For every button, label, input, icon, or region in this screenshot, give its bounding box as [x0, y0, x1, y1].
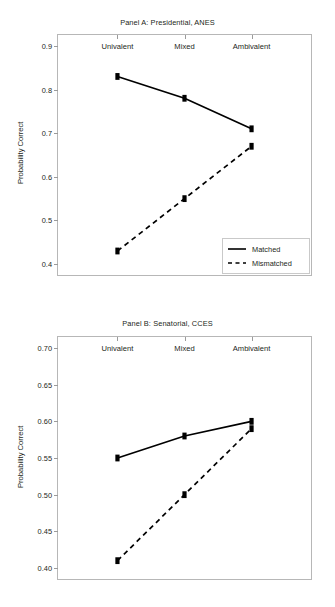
- y-tick-label: 0.55: [38, 454, 52, 463]
- data-point-marker: [249, 425, 253, 432]
- panel-a-legend: Matched Mismatched: [222, 238, 310, 274]
- data-point-marker: [115, 557, 119, 564]
- panel-b-title: Panel B: Senatorial, CCES: [0, 319, 335, 328]
- series-line-matched: [117, 76, 251, 128]
- legend-label-mismatched: Mismatched: [252, 259, 292, 268]
- data-point-marker: [115, 455, 119, 462]
- y-tick-label: 0.4: [42, 260, 52, 269]
- panel-a-title: Panel A: Presidential, ANES: [0, 18, 335, 27]
- legend-line-solid-icon: [227, 244, 247, 254]
- y-tick-label: 0.50: [38, 490, 52, 499]
- legend-row-matched: Matched: [227, 242, 304, 256]
- data-point-marker: [249, 418, 253, 425]
- y-tick-label: 0.6: [42, 172, 52, 181]
- y-tick-label: 0.45: [38, 527, 52, 536]
- y-tick-label: 0.60: [38, 417, 52, 426]
- data-point-marker: [249, 125, 253, 132]
- panel-b: Panel B: Senatorial, CCES Probability Co…: [0, 300, 335, 607]
- series-line-matched: [117, 421, 251, 458]
- y-tick-label: 0.70: [38, 344, 52, 353]
- legend-row-mismatched: Mismatched: [227, 256, 304, 270]
- y-tick-label: 0.65: [38, 380, 52, 389]
- figure-two-panel-line-chart: Panel A: Presidential, ANES Probability …: [0, 0, 335, 607]
- y-tick-label: 0.7: [42, 129, 52, 138]
- legend-line-dashed-icon: [227, 258, 247, 268]
- data-point-marker: [115, 248, 119, 255]
- data-point-marker: [182, 195, 186, 202]
- panel-b-y-axis-label: Probability Correct: [16, 426, 25, 488]
- data-point-marker: [182, 491, 186, 498]
- data-point-marker: [115, 73, 119, 80]
- y-tick-label: 0.8: [42, 85, 52, 94]
- panel-a-y-axis-label: Probability Correct: [16, 122, 25, 184]
- panel-b-series-layer: [58, 337, 311, 579]
- y-tick-label: 0.40: [38, 564, 52, 573]
- data-point-marker: [182, 95, 186, 102]
- legend-label-matched: Matched: [252, 245, 280, 254]
- data-point-marker: [249, 143, 253, 150]
- panel-a: Panel A: Presidential, ANES Probability …: [0, 0, 335, 300]
- y-tick-label: 0.5: [42, 216, 52, 225]
- y-tick-label: 0.9: [42, 41, 52, 50]
- panel-b-plot-area: 0.400.450.500.550.600.650.70 UnivalentMi…: [57, 336, 312, 580]
- data-point-marker: [182, 433, 186, 440]
